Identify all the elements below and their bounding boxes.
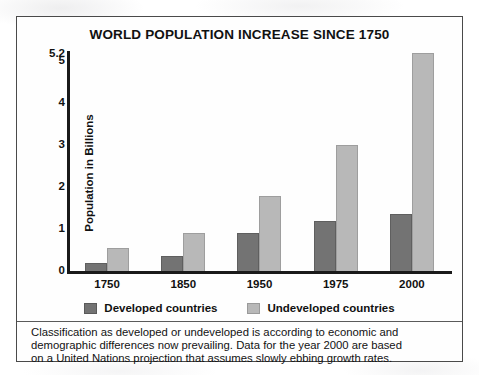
figure-frame: WORLD POPULATION INCREASE SINCE 1750 012… [16, 16, 463, 362]
legend-label: Undeveloped countries [267, 302, 394, 314]
bar [412, 53, 434, 271]
legend-item: Undeveloped countries [247, 302, 394, 314]
bar-group [298, 53, 374, 271]
chart-legend: Developed countriesUndeveloped countries [17, 302, 462, 314]
bar [336, 145, 358, 271]
bar [183, 233, 205, 271]
bar [259, 196, 281, 271]
figure-caption: Classification as developed or undevelop… [31, 326, 450, 365]
x-axis-line [67, 271, 452, 274]
legend-swatch-icon [247, 303, 260, 314]
bar-group [374, 53, 450, 271]
x-axis-tick-labels: 17501850195019752000 [69, 278, 450, 298]
x-axis-tick-1850: 1850 [171, 278, 197, 290]
y-axis-tick-0: 0 [21, 265, 65, 277]
legend-swatch-icon [84, 303, 97, 314]
caption-line: Classification as developed or undevelop… [31, 326, 450, 339]
x-axis-tick-1750: 1750 [94, 278, 120, 290]
plot-area [69, 53, 450, 271]
y-axis-tick-1: 1 [21, 223, 65, 235]
x-axis-tick-2000: 2000 [399, 278, 425, 290]
bar [237, 233, 259, 271]
bar [107, 248, 129, 271]
caption-line: on a United Nations projection that assu… [31, 352, 450, 365]
y-axis-tick-2: 2 [21, 181, 65, 193]
legend-label: Developed countries [104, 302, 217, 314]
y-axis-tick-max: 5.2 [21, 48, 65, 60]
bar-group [221, 53, 297, 271]
bar-group [145, 53, 221, 271]
y-axis-tick-4: 4 [21, 98, 65, 110]
bar [85, 263, 107, 271]
legend-item: Developed countries [84, 302, 217, 314]
y-axis-tick-3: 3 [21, 139, 65, 151]
bar [161, 256, 183, 271]
x-axis-tick-1975: 1975 [323, 278, 349, 290]
caption-divider [17, 321, 462, 322]
chart-title: WORLD POPULATION INCREASE SINCE 1750 [17, 27, 462, 42]
bar [390, 214, 412, 271]
bar [314, 221, 336, 271]
x-axis-tick-1950: 1950 [247, 278, 273, 290]
caption-line: demographic differences now prevailing. … [31, 339, 450, 352]
bar-group [69, 53, 145, 271]
